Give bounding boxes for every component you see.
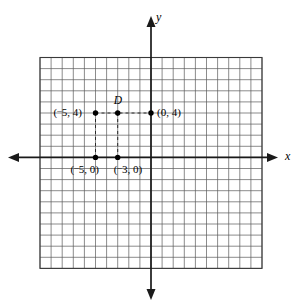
- raised-minus-sign: –: [117, 163, 122, 173]
- point-marker-point-neg5-4: [93, 110, 98, 115]
- point-label-neg5-0: (–5, 0): [71, 164, 99, 175]
- point-marker-point-D: [115, 110, 120, 115]
- x-axis-right-arrowhead: [267, 153, 278, 162]
- coordinate-plane-svg: [0, 0, 307, 302]
- point-label-0-4: (0, 4): [157, 107, 181, 118]
- point-label-neg3-0: (–3, 0): [114, 164, 142, 175]
- raised-minus-sign: –: [74, 163, 79, 173]
- point-label-D: D: [114, 95, 122, 107]
- raised-minus-sign: –: [57, 105, 62, 115]
- point-marker-point-neg3-0: [115, 155, 120, 160]
- point-marker-point-0-4: [148, 110, 153, 115]
- point-marker-point-neg5-0: [93, 155, 98, 160]
- point-label-neg5-4: (–5, 4): [54, 107, 82, 118]
- y-axis-down-arrowhead: [147, 289, 156, 300]
- x-axis-left-arrowhead: [8, 153, 19, 162]
- y-axis-up-arrowhead: [147, 16, 156, 27]
- coordinate-plane-figure: y x (–5, 4) D (0, 4) (–5, 0) (–3, 0): [0, 0, 307, 302]
- x-axis-label: x: [285, 150, 290, 162]
- y-axis-label: y: [156, 11, 161, 23]
